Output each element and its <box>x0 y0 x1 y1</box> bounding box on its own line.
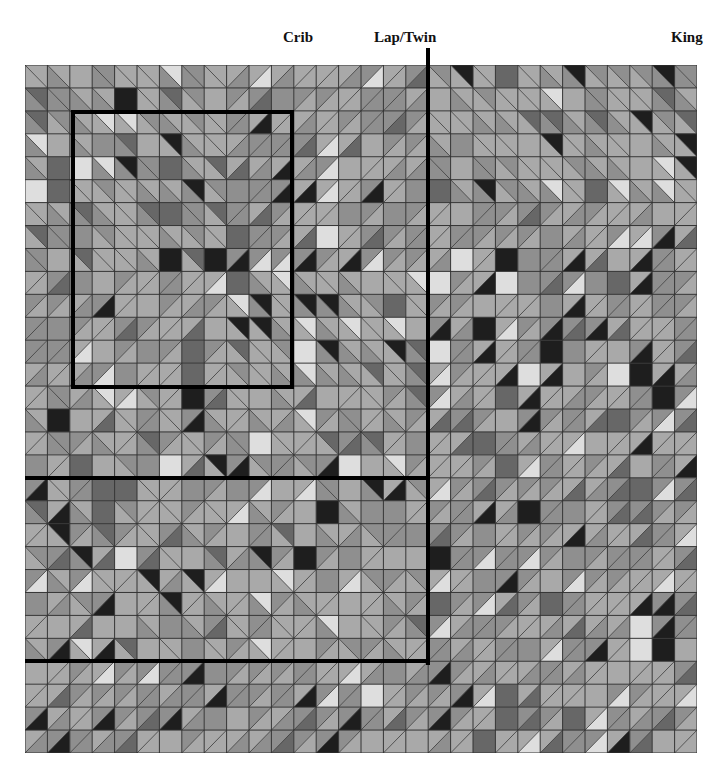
crib-outline-top <box>71 110 294 114</box>
crib-outline-left <box>71 110 75 389</box>
size-label-crib: Crib <box>283 29 313 46</box>
crib-outline-right <box>290 110 294 389</box>
crib-outline-bottom <box>71 385 294 389</box>
size-label-king: King <box>671 29 703 46</box>
lap-twin-outline-right <box>426 48 430 665</box>
second-size-outline-bottom <box>25 659 430 663</box>
quilt-diagram <box>25 65 697 753</box>
size-label-lap-twin: Lap/Twin <box>374 29 436 46</box>
lap-twin-outline-bottom <box>25 476 430 480</box>
